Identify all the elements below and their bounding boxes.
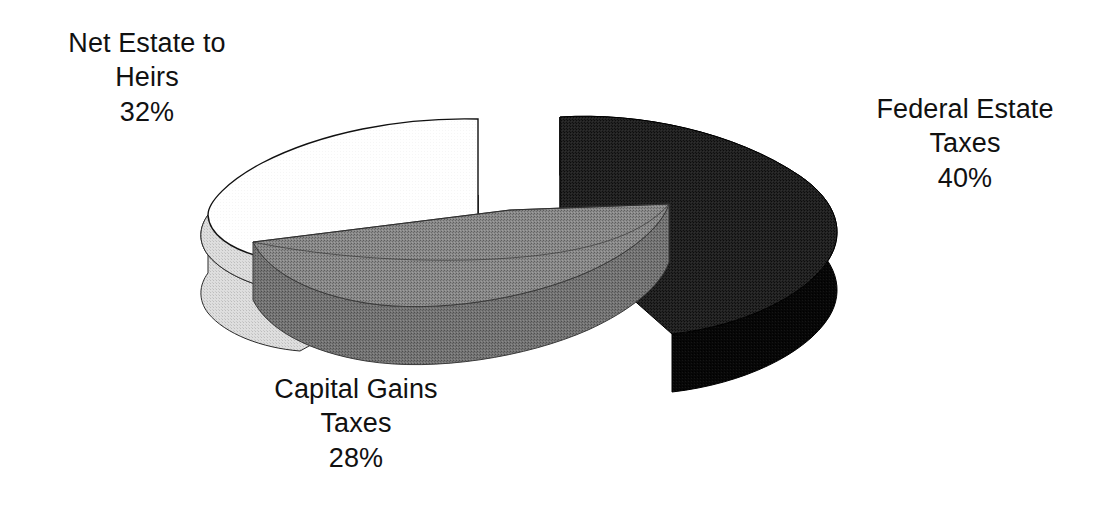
slice-label-capital-gains-line1: Capital Gains bbox=[222, 372, 490, 406]
slice-label-federal-estate-line1: Federal Estate bbox=[845, 92, 1085, 126]
slice-label-federal-estate-taxes: Federal Estate Taxes 40% bbox=[845, 92, 1085, 195]
slice-label-net-estate-line1: Net Estate to bbox=[22, 26, 272, 60]
slice-label-capital-gains-percent: 28% bbox=[222, 441, 490, 475]
slice-label-capital-gains-taxes: Capital Gains Taxes 28% bbox=[222, 372, 490, 475]
slice-label-capital-gains-line2: Taxes bbox=[222, 406, 490, 440]
slice-label-net-estate-line2: Heirs bbox=[22, 60, 272, 94]
slice-label-federal-estate-percent: 40% bbox=[845, 161, 1085, 195]
slice-label-net-estate-percent: 32% bbox=[22, 95, 272, 129]
slice-label-net-estate-to-heirs: Net Estate to Heirs 32% bbox=[22, 26, 272, 129]
pie-chart-figure: Net Estate to Heirs 32% Federal Estate T… bbox=[0, 0, 1108, 517]
slice-label-federal-estate-line2: Taxes bbox=[845, 126, 1085, 160]
